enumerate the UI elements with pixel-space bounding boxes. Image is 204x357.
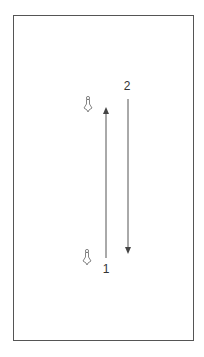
label-2: 2 <box>124 80 131 92</box>
pin-icon <box>83 249 91 265</box>
arrow-up-head-icon <box>103 107 109 114</box>
diagram-canvas <box>0 0 204 357</box>
arrow-down <box>125 99 131 254</box>
arrow-down-head-icon <box>125 247 131 254</box>
pin-icon <box>84 96 92 112</box>
arrow-up <box>103 107 109 258</box>
label-1: 1 <box>103 263 110 275</box>
